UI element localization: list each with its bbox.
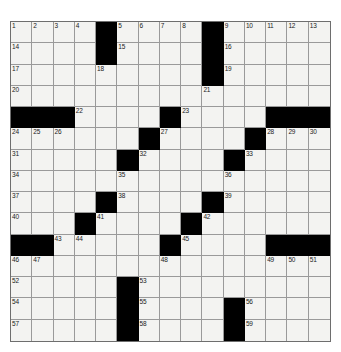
- crossword-cell[interactable]: 51: [309, 256, 330, 277]
- crossword-cell[interactable]: [266, 150, 287, 171]
- crossword-cell[interactable]: [287, 171, 308, 192]
- crossword-cell[interactable]: [202, 277, 223, 298]
- crossword-cell[interactable]: 38: [117, 192, 138, 213]
- crossword-cell[interactable]: [181, 65, 202, 86]
- crossword-cell[interactable]: [160, 320, 181, 341]
- crossword-cell[interactable]: [32, 298, 53, 319]
- crossword-cell[interactable]: [181, 320, 202, 341]
- crossword-cell[interactable]: 7: [160, 22, 181, 43]
- crossword-cell[interactable]: [96, 320, 117, 341]
- crossword-cell[interactable]: 1: [11, 22, 32, 43]
- crossword-cell[interactable]: [32, 65, 53, 86]
- crossword-cell[interactable]: 36: [224, 171, 245, 192]
- crossword-cell[interactable]: [202, 107, 223, 128]
- crossword-cell[interactable]: [287, 320, 308, 341]
- crossword-cell[interactable]: [160, 213, 181, 234]
- crossword-cell[interactable]: 4: [75, 22, 96, 43]
- crossword-cell[interactable]: [181, 192, 202, 213]
- crossword-cell[interactable]: [309, 171, 330, 192]
- crossword-cell[interactable]: 8: [181, 22, 202, 43]
- crossword-cell[interactable]: [181, 256, 202, 277]
- crossword-cell[interactable]: [160, 192, 181, 213]
- crossword-cell[interactable]: [287, 150, 308, 171]
- crossword-cell[interactable]: [32, 192, 53, 213]
- crossword-cell[interactable]: [202, 128, 223, 149]
- crossword-cell[interactable]: [32, 213, 53, 234]
- crossword-cell[interactable]: 54: [11, 298, 32, 319]
- crossword-cell[interactable]: [75, 65, 96, 86]
- crossword-cell[interactable]: [117, 256, 138, 277]
- crossword-cell[interactable]: [75, 192, 96, 213]
- crossword-cell[interactable]: [96, 256, 117, 277]
- crossword-cell[interactable]: [160, 171, 181, 192]
- crossword-cell[interactable]: [181, 171, 202, 192]
- crossword-cell[interactable]: 12: [287, 22, 308, 43]
- crossword-cell[interactable]: [54, 277, 75, 298]
- crossword-cell[interactable]: 46: [11, 256, 32, 277]
- crossword-cell[interactable]: [117, 213, 138, 234]
- crossword-cell[interactable]: [75, 86, 96, 107]
- crossword-cell[interactable]: [224, 213, 245, 234]
- crossword-cell[interactable]: [287, 277, 308, 298]
- crossword-cell[interactable]: 30: [309, 128, 330, 149]
- crossword-cell[interactable]: 9: [224, 22, 245, 43]
- crossword-cell[interactable]: [96, 277, 117, 298]
- crossword-cell[interactable]: [75, 150, 96, 171]
- crossword-cell[interactable]: [32, 86, 53, 107]
- crossword-cell[interactable]: [32, 150, 53, 171]
- crossword-cell[interactable]: [96, 298, 117, 319]
- crossword-cell[interactable]: [266, 171, 287, 192]
- crossword-cell[interactable]: 6: [139, 22, 160, 43]
- crossword-cell[interactable]: [202, 320, 223, 341]
- crossword-cell[interactable]: [266, 65, 287, 86]
- crossword-cell[interactable]: [309, 86, 330, 107]
- crossword-cell[interactable]: [245, 65, 266, 86]
- crossword-cell[interactable]: 34: [11, 171, 32, 192]
- crossword-cell[interactable]: [160, 43, 181, 64]
- crossword-cell[interactable]: [117, 65, 138, 86]
- crossword-cell[interactable]: [32, 171, 53, 192]
- crossword-cell[interactable]: 16: [224, 43, 245, 64]
- crossword-cell[interactable]: [266, 277, 287, 298]
- crossword-cell[interactable]: [96, 171, 117, 192]
- crossword-cell[interactable]: [245, 213, 266, 234]
- crossword-cell[interactable]: [160, 298, 181, 319]
- crossword-grid[interactable]: 1234567891011121314151617181920212223242…: [10, 21, 331, 342]
- crossword-cell[interactable]: [54, 86, 75, 107]
- crossword-cell[interactable]: [266, 298, 287, 319]
- crossword-cell[interactable]: [117, 235, 138, 256]
- crossword-cell[interactable]: [54, 192, 75, 213]
- crossword-cell[interactable]: [202, 235, 223, 256]
- crossword-cell[interactable]: [139, 107, 160, 128]
- crossword-cell[interactable]: [32, 320, 53, 341]
- crossword-cell[interactable]: [160, 86, 181, 107]
- crossword-cell[interactable]: [75, 277, 96, 298]
- crossword-cell[interactable]: 17: [11, 65, 32, 86]
- crossword-cell[interactable]: [287, 192, 308, 213]
- crossword-cell[interactable]: [160, 65, 181, 86]
- crossword-cell[interactable]: 59: [245, 320, 266, 341]
- crossword-cell[interactable]: 43: [54, 235, 75, 256]
- crossword-cell[interactable]: 14: [11, 43, 32, 64]
- crossword-cell[interactable]: [181, 298, 202, 319]
- crossword-cell[interactable]: [224, 235, 245, 256]
- crossword-cell[interactable]: [266, 213, 287, 234]
- crossword-cell[interactable]: 15: [117, 43, 138, 64]
- crossword-cell[interactable]: [287, 43, 308, 64]
- crossword-cell[interactable]: 33: [245, 150, 266, 171]
- crossword-cell[interactable]: [287, 65, 308, 86]
- crossword-cell[interactable]: [266, 86, 287, 107]
- crossword-cell[interactable]: [309, 213, 330, 234]
- crossword-cell[interactable]: 50: [287, 256, 308, 277]
- crossword-cell[interactable]: [181, 150, 202, 171]
- crossword-cell[interactable]: [287, 298, 308, 319]
- crossword-cell[interactable]: 57: [11, 320, 32, 341]
- crossword-cell[interactable]: 45: [181, 235, 202, 256]
- crossword-cell[interactable]: [96, 235, 117, 256]
- crossword-cell[interactable]: 32: [139, 150, 160, 171]
- crossword-cell[interactable]: [139, 213, 160, 234]
- crossword-cell[interactable]: [96, 107, 117, 128]
- crossword-cell[interactable]: [202, 298, 223, 319]
- crossword-cell[interactable]: [181, 43, 202, 64]
- crossword-cell[interactable]: 23: [181, 107, 202, 128]
